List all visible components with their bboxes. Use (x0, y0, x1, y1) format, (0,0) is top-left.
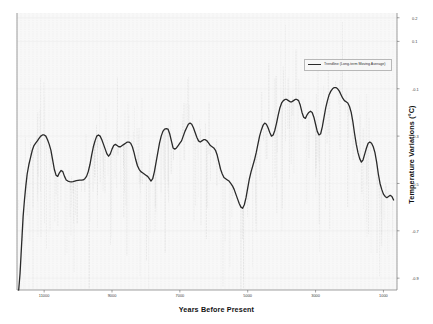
x-tick-label: 1000 (379, 293, 388, 298)
x-axis-title: Years Before Present (0, 305, 433, 314)
y-tick-label: -0.9 (412, 276, 419, 281)
chart-figure: Trendline (Long-term Moving Average) Yea… (0, 0, 433, 324)
x-tick-label: 3000 (311, 293, 320, 298)
x-tick-label: 9000 (108, 293, 117, 298)
x-tick-label: 11000 (39, 293, 50, 298)
legend-label-trendline: Trendline (Long-term Moving Average) (324, 63, 385, 67)
y-tick-label: -0.1 (412, 86, 419, 91)
y-axis-title: Temperature Variations (°C) (407, 85, 416, 225)
y-tick-label: -0.7 (412, 228, 419, 233)
chart-plot-svg (0, 0, 433, 324)
x-tick-label: 7000 (176, 293, 185, 298)
chart-legend[interactable]: Trendline (Long-term Moving Average) (304, 59, 392, 71)
y-tick-label: 0.1 (412, 39, 417, 44)
y-tick-label: 0.2 (412, 15, 417, 20)
y-tick-label: -0.3 (412, 134, 419, 139)
x-tick-label: 5000 (243, 293, 252, 298)
y-tick-label: -0.5 (412, 181, 419, 186)
legend-line-swatch (308, 64, 321, 65)
